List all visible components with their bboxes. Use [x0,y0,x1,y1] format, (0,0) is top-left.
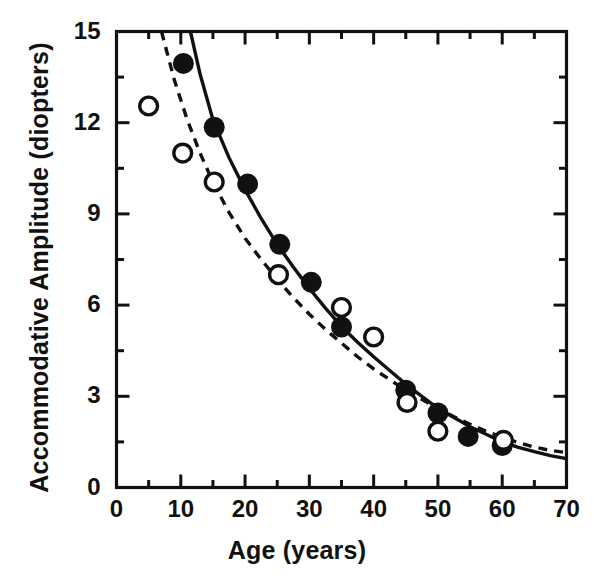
y-tick-label: 6 [41,290,101,318]
data-point-open [174,144,192,162]
data-point-open [365,328,383,346]
data-point-filled [427,403,448,424]
x-tick-label: 40 [344,495,404,523]
data-point-filled [269,234,290,255]
x-tick-label: 10 [151,495,211,523]
x-tick-label: 50 [408,495,468,523]
y-tick-label: 12 [41,108,101,136]
axis-ticks [117,32,567,488]
data-point-open [495,431,513,449]
x-tick-label: 60 [472,495,532,523]
data-point-filled [331,316,352,337]
data-points [140,53,513,456]
solid-fit-curve [190,32,566,459]
data-point-filled [173,53,194,74]
fit-curves [162,32,567,459]
data-point-filled [204,117,225,138]
chart-figure: Age (years) Accommodative Amplitude (dio… [0,0,594,587]
y-tick-label: 0 [41,473,101,501]
plot-frame [117,32,567,488]
data-point-filled [301,272,322,293]
y-tick-label: 15 [41,17,101,45]
data-point-open [429,422,447,440]
y-tick-label: 9 [41,199,101,227]
plot-frame-rect [117,32,567,488]
y-tick-label: 3 [41,381,101,409]
y-axis-title: Accommodative Amplitude (diopters) [25,18,54,518]
data-point-open [398,393,416,411]
data-point-open [270,266,288,284]
dashed-fit-curve [162,32,567,453]
x-tick-label: 30 [279,495,339,523]
data-point-open [205,173,223,191]
data-point-open [140,97,158,115]
x-tick-label: 70 [537,495,594,523]
data-point-filled [458,426,479,447]
data-point-filled [237,174,258,195]
x-tick-label: 20 [215,495,275,523]
data-point-open [333,299,351,317]
x-axis-title: Age (years) [0,536,594,565]
